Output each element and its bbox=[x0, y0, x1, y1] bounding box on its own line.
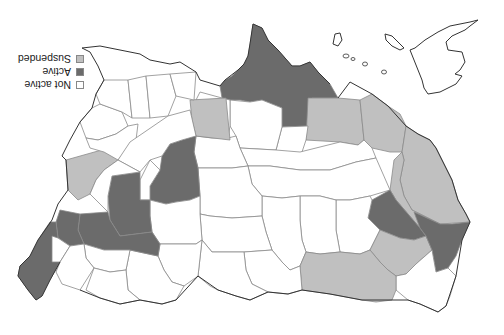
state-kansas[interactable] bbox=[150, 196, 202, 244]
hawaii-islands bbox=[343, 54, 387, 74]
legend-swatch-active bbox=[76, 69, 84, 77]
legend-swatch-suspended bbox=[76, 56, 84, 64]
legend-item-not-active: Not active bbox=[14, 79, 84, 92]
legend-label: Suspended bbox=[18, 54, 71, 66]
states bbox=[18, 24, 470, 312]
state-iowa[interactable] bbox=[200, 214, 272, 252]
legend-label: Not active bbox=[24, 80, 71, 92]
state-north-dakota[interactable] bbox=[190, 98, 230, 140]
legend-item-suspended: Suspended bbox=[14, 53, 84, 66]
us-choropleth-map bbox=[0, 0, 504, 335]
state-indiana[interactable] bbox=[300, 196, 340, 254]
alaska-outline bbox=[333, 20, 478, 94]
legend-item-active: Active bbox=[14, 66, 84, 79]
state-georgia[interactable] bbox=[306, 98, 364, 145]
legend-swatch-not-active bbox=[76, 82, 84, 90]
legend: Not active Active Suspended bbox=[14, 52, 84, 92]
legend-label: Active bbox=[42, 67, 71, 79]
